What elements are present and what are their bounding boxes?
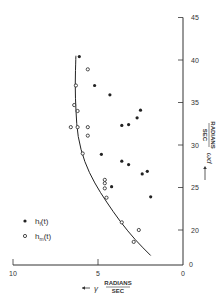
point-hm [74,84,77,87]
legend: hf(t) hm(t) [23,217,51,242]
y-tick-label: 0 [189,261,193,268]
point-hm [120,221,123,224]
y-axis-symbol: ωd [205,153,214,164]
point-hm [69,126,72,129]
point-hf [120,160,123,163]
point-hm [86,126,89,129]
y-tick-label: 45 [191,14,199,21]
fitted-curve [75,56,150,256]
data-points [69,55,152,243]
point-hm [132,240,135,243]
x-tick-label: 0 [181,270,185,277]
legend-open-label: hm(t) [35,232,52,242]
legend-filled-label: hf(t) [35,217,49,227]
point-hf [127,163,130,166]
point-hm [76,109,79,112]
y-label-symbol: ωd [205,153,214,164]
x-tick-label: 5 [96,270,100,277]
point-hm [103,178,106,181]
arrow-left-icon [82,286,85,290]
y-tick-label: 20 [191,227,199,234]
point-hm [103,187,106,190]
scatter-chart: 02025303540451050γRADIANSSECRADIANSSECωd… [0,0,224,300]
point-hf [139,109,142,112]
y-label-units-num: RADIANS [210,121,216,148]
point-hf [149,195,152,198]
legend-filled-marker [23,219,26,222]
legend-open-marker [23,234,26,237]
y-tick-label: 25 [191,184,199,191]
point-hf [100,153,103,156]
axes: 02025303540451050γRADIANSSECRADIANSSECωd [9,14,216,294]
y-axis-label: RADIANSSEC [202,121,216,148]
point-hm [76,126,79,129]
point-hf [141,172,144,175]
x-tick-label: 10 [9,270,17,277]
point-hm [105,196,108,199]
point-hf [136,116,139,119]
point-hm [103,182,106,185]
point-hm [137,228,140,231]
point-hm [86,68,89,71]
point-hm [81,152,84,155]
y-tick-label: 30 [191,142,199,149]
point-hf [93,84,96,87]
x-label-units-num: RADIANS [104,280,131,286]
arrow-up-icon [203,166,207,169]
point-hf [127,123,130,126]
curve-path [75,56,150,256]
point-hm [73,103,76,106]
point-hf [110,185,113,188]
point-hm [86,134,89,137]
y-label-units-den: SEC [202,129,208,142]
point-hf [108,93,111,96]
y-tick-label: 35 [191,99,199,106]
point-hf [78,55,81,58]
x-label-units-den: SEC [112,288,125,294]
x-label-symbol: γ [94,284,99,293]
y-tick-label: 40 [191,57,199,64]
point-hf [120,124,123,127]
point-hf [146,170,149,173]
